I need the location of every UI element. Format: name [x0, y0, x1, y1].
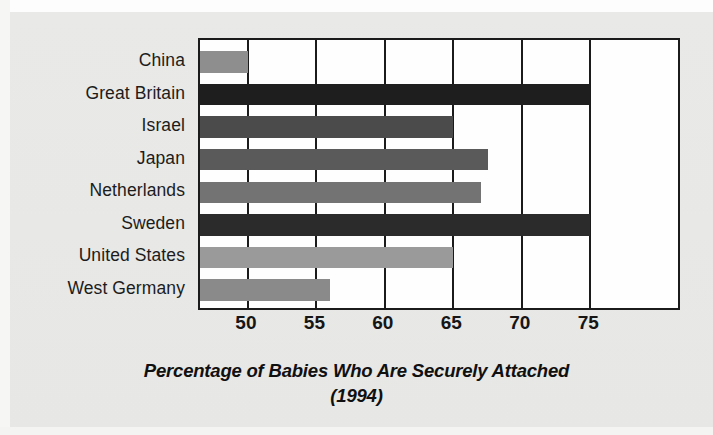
bar-row	[200, 78, 682, 111]
bar-israel	[200, 116, 453, 137]
x-tick-label-70: 70	[509, 312, 530, 334]
category-label-west-germany: West Germany	[67, 271, 185, 305]
plot-area	[198, 38, 680, 310]
value-axis-tick-labels: 505560657075	[198, 312, 680, 342]
bar-row	[200, 274, 682, 307]
bar-row	[200, 46, 682, 79]
category-label-japan: Japan	[137, 141, 185, 175]
category-label-sweden: Sweden	[121, 206, 185, 240]
category-label-united-states: United States	[79, 238, 185, 272]
category-axis-labels: ChinaGreat BritainIsraelJapanNetherlands…	[10, 38, 193, 310]
bar-row	[200, 143, 682, 176]
bar-japan	[200, 149, 488, 170]
bar-row	[200, 176, 682, 209]
chart-title: Percentage of Babies Who Are Securely At…	[0, 358, 713, 408]
bar-row	[200, 111, 682, 144]
category-label-israel: Israel	[142, 108, 185, 142]
chart-figure: ChinaGreat BritainIsraelJapanNetherlands…	[0, 0, 713, 435]
bar-china	[200, 51, 248, 72]
page-bottom-margin	[0, 427, 713, 435]
x-tick-label-60: 60	[372, 312, 393, 334]
x-tick-label-50: 50	[235, 312, 256, 334]
x-tick-label-65: 65	[441, 312, 462, 334]
category-label-netherlands: Netherlands	[90, 173, 185, 207]
page-top-margin	[0, 0, 713, 12]
bar-sweden	[200, 214, 590, 235]
bar-united-states	[200, 247, 453, 268]
bar-row	[200, 241, 682, 274]
chart-title-line-1: Percentage of Babies Who Are Securely At…	[144, 360, 569, 381]
chart-title-line-2: (1994)	[0, 383, 713, 408]
bar-row	[200, 209, 682, 242]
x-tick-label-55: 55	[304, 312, 325, 334]
bar-great-britain	[200, 84, 590, 105]
bar-west-germany	[200, 279, 330, 300]
bar-netherlands	[200, 182, 481, 203]
category-label-china: China	[139, 43, 185, 77]
category-label-great-britain: Great Britain	[85, 76, 185, 110]
x-tick-label-75: 75	[578, 312, 599, 334]
